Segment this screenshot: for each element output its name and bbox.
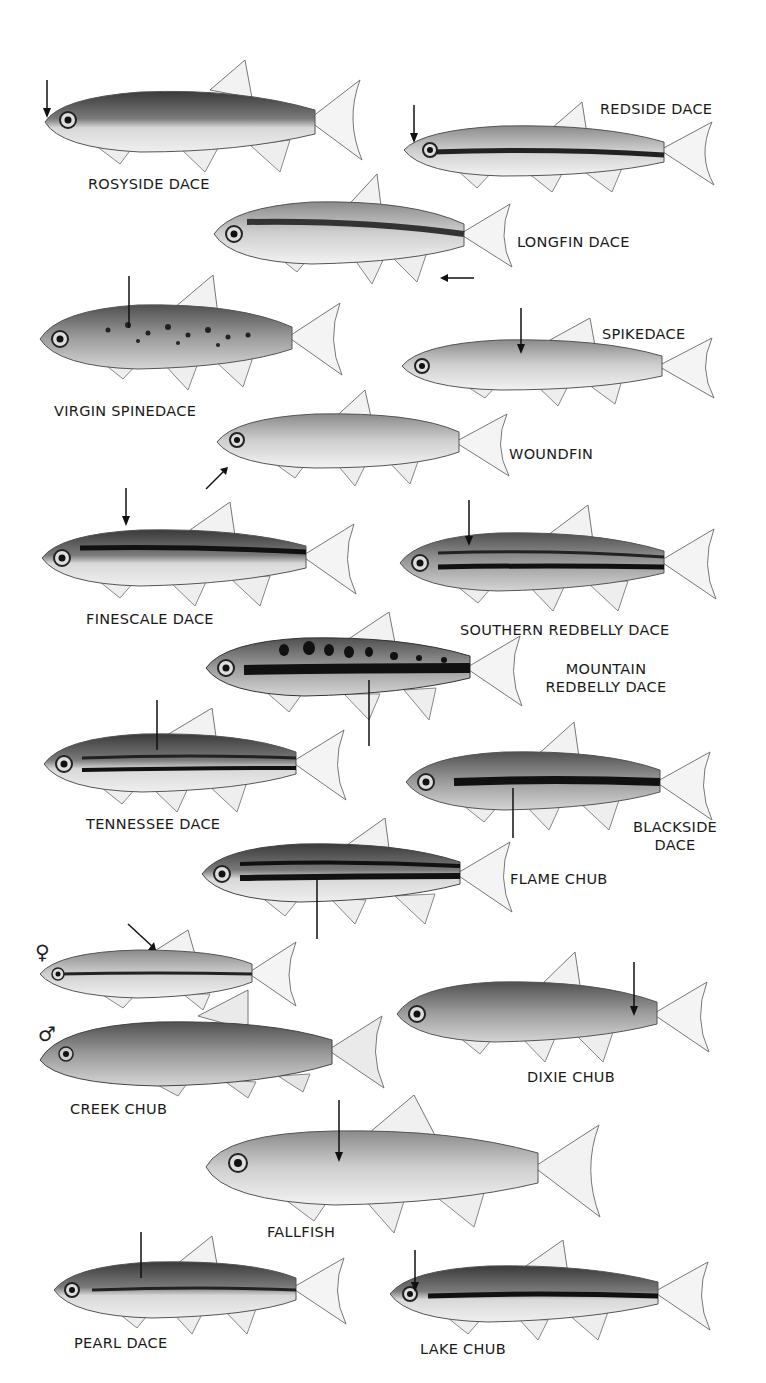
label-mountain-redbelly-dace-line1: MOUNTAIN (526, 660, 686, 678)
fish-illustration-virgin-spinedace (38, 275, 348, 395)
label-mountain-redbelly-dace: MOUNTAIN REDBELLY DACE (526, 660, 686, 696)
label-creek-chub: CREEK CHUB (70, 1100, 167, 1118)
arrow-indicator (204, 465, 230, 491)
arrow-indicator (334, 1100, 344, 1164)
label-redside-dace: REDSIDE DACE (600, 100, 712, 118)
fish-illustration-dixie-chub (395, 952, 715, 1064)
label-woundfin: WOUNDFIN (509, 445, 593, 463)
label-blackside-dace: BLACKSIDE DACE (620, 818, 730, 854)
fish-illustration-tennessee-dace (42, 708, 352, 813)
label-longfin-dace: LONGFIN DACE (517, 233, 630, 251)
arrow-indicator (516, 308, 526, 356)
arrow-indicator (312, 875, 322, 941)
fish-illustration-flame-chub (200, 818, 516, 928)
fish-illustration-pearl-dace (52, 1236, 352, 1336)
label-finescale-dace: FINESCALE DACE (86, 610, 214, 628)
label-virgin-spinedace: VIRGIN SPINEDACE (54, 402, 196, 420)
arrow-indicator (440, 272, 476, 284)
arrow-indicator (464, 500, 474, 548)
label-pearl-dace: PEARL DACE (74, 1334, 167, 1352)
fish-illustration-finescale-dace (40, 502, 360, 612)
arrow-indicator (152, 700, 162, 752)
arrow-indicator (629, 962, 639, 1018)
fish-illustration-blackside-dace (404, 722, 718, 832)
label-dixie-chub: DIXIE CHUB (527, 1068, 615, 1086)
fish-illustration-fallfish (204, 1095, 604, 1237)
arrow-indicator (364, 680, 374, 748)
label-rosyside-dace: ROSYSIDE DACE (88, 175, 210, 193)
arrow-indicator (126, 922, 158, 952)
arrow-indicator (410, 1250, 420, 1294)
label-lake-chub: LAKE CHUB (420, 1340, 506, 1358)
fish-illustration-lake-chub (388, 1240, 714, 1342)
label-blackside-dace-line2: DACE (620, 836, 730, 854)
fish-illustration-longfin-dace (212, 172, 522, 287)
fish-illustration-creek-chub-male (38, 988, 388, 1100)
fish-illustration-woundfin (215, 390, 515, 490)
label-mountain-redbelly-dace-line2: REDBELLY DACE (526, 678, 686, 696)
fish-illustration-southern-redbelly-dace (398, 505, 720, 615)
arrow-indicator (409, 105, 419, 145)
label-spikedace: SPIKEDACE (602, 325, 685, 343)
arrow-indicator (121, 488, 131, 528)
label-blackside-dace-line1: BLACKSIDE (620, 818, 730, 836)
fish-illustration-rosyside-dace (40, 60, 370, 180)
arrow-indicator (42, 80, 52, 120)
arrow-indicator (124, 276, 134, 331)
arrow-indicator (136, 1232, 146, 1282)
label-flame-chub: FLAME CHUB (510, 870, 608, 888)
